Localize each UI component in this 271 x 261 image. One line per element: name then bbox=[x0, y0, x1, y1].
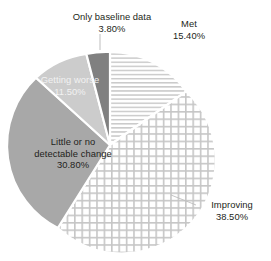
slice-label-met-value: 15.40% bbox=[152, 30, 226, 42]
slice-label-little-change-value: 30.80% bbox=[13, 159, 133, 171]
slice-label-getting-worse-name: Getting worse bbox=[27, 74, 113, 86]
slice-label-met-name: Met bbox=[152, 18, 226, 30]
slice-label-improving: Improving 38.50% bbox=[196, 199, 268, 222]
slice-label-improving-value: 38.50% bbox=[196, 211, 268, 223]
slice-label-improving-name: Improving bbox=[196, 199, 268, 211]
slice-label-little-or-no-detectable-change: Little or no detectable change 30.80% bbox=[13, 136, 133, 171]
slice-label-getting-worse: Getting worse 11.50% bbox=[27, 74, 113, 97]
slice-label-little-change-name-line2: detectable change bbox=[13, 148, 133, 160]
slice-label-met: Met 15.40% bbox=[152, 18, 226, 41]
slice-label-getting-worse-value: 11.50% bbox=[27, 86, 113, 98]
pie-chart-figure: Only baseline data 3.80% Met 15.40% Impr… bbox=[0, 0, 271, 261]
slice-label-little-change-name-line1: Little or no bbox=[13, 136, 133, 148]
